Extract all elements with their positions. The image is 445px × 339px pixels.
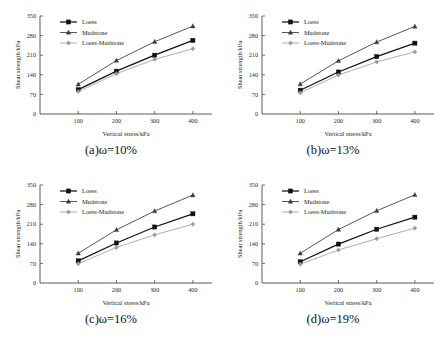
svg-text:Loess-Mudstone: Loess-Mudstone	[82, 208, 124, 215]
svg-text:400: 400	[188, 117, 197, 124]
svg-text:0: 0	[33, 110, 36, 117]
svg-text:100: 100	[74, 117, 83, 124]
svg-text:200: 200	[334, 286, 343, 293]
svg-text:0: 0	[33, 279, 36, 286]
svg-text:Shear strength/kPa: Shear strength/kPa	[236, 210, 243, 258]
svg-text:Loess: Loess	[304, 187, 319, 194]
subplot-a: 070140210280350100200300400Vertical stre…	[0, 0, 222, 169]
svg-text:210: 210	[27, 220, 36, 227]
svg-text:70: 70	[252, 260, 258, 267]
svg-text:100: 100	[296, 117, 305, 124]
subplot-d-plot: 070140210280350100200300400Vertical stre…	[222, 169, 444, 314]
svg-text:140: 140	[27, 71, 36, 78]
svg-text:200: 200	[334, 117, 343, 124]
svg-text:400: 400	[410, 286, 419, 293]
svg-text:200: 200	[112, 117, 121, 124]
svg-text:Mudstone: Mudstone	[82, 198, 107, 205]
subplot-b-caption: (b)ω=13%	[222, 143, 444, 158]
svg-text:210: 210	[27, 51, 36, 58]
svg-text:Vertical stress/kPa: Vertical stress/kPa	[102, 299, 149, 306]
svg-text:Loess-Mudstone: Loess-Mudstone	[304, 208, 346, 215]
svg-text:Loess: Loess	[82, 187, 97, 194]
svg-text:200: 200	[112, 286, 121, 293]
svg-text:Mudstone: Mudstone	[304, 29, 329, 36]
svg-text:140: 140	[249, 240, 258, 247]
svg-text:Shear strength/kPa: Shear strength/kPa	[236, 41, 243, 89]
svg-text:140: 140	[27, 240, 36, 247]
svg-text:300: 300	[372, 286, 381, 293]
figure-container: 070140210280350100200300400Vertical stre…	[0, 0, 445, 339]
svg-text:140: 140	[249, 71, 258, 78]
svg-text:0: 0	[255, 279, 258, 286]
svg-text:300: 300	[150, 117, 159, 124]
svg-text:70: 70	[252, 91, 258, 98]
svg-text:Vertical stress/kPa: Vertical stress/kPa	[324, 130, 371, 137]
svg-text:Vertical stress/kPa: Vertical stress/kPa	[102, 130, 149, 137]
svg-text:280: 280	[27, 201, 36, 208]
subplot-c: 070140210280350100200300400Vertical stre…	[0, 169, 222, 338]
subplot-c-plot: 070140210280350100200300400Vertical stre…	[0, 169, 222, 314]
svg-text:350: 350	[27, 12, 36, 19]
subplot-c-caption: (c)ω=16%	[0, 312, 222, 327]
svg-text:350: 350	[249, 12, 258, 19]
svg-text:Shear strength/kPa: Shear strength/kPa	[14, 210, 21, 258]
svg-text:Shear strength/kPa: Shear strength/kPa	[14, 41, 21, 89]
svg-text:Mudstone: Mudstone	[82, 29, 107, 36]
svg-text:210: 210	[249, 220, 258, 227]
subplot-d: 070140210280350100200300400Vertical stre…	[222, 169, 444, 338]
svg-text:70: 70	[30, 91, 36, 98]
svg-text:0: 0	[255, 110, 258, 117]
svg-text:280: 280	[27, 32, 36, 39]
svg-text:Mudstone: Mudstone	[304, 198, 329, 205]
subplot-b-plot: 070140210280350100200300400Vertical stre…	[222, 0, 444, 145]
svg-text:400: 400	[410, 117, 419, 124]
svg-text:Loess: Loess	[82, 18, 97, 25]
subplot-b: 070140210280350100200300400Vertical stre…	[222, 0, 444, 169]
svg-text:280: 280	[249, 32, 258, 39]
svg-text:100: 100	[296, 286, 305, 293]
svg-text:300: 300	[372, 117, 381, 124]
subplot-d-caption: (d)ω=19%	[222, 312, 444, 327]
svg-text:350: 350	[249, 181, 258, 188]
svg-text:400: 400	[188, 286, 197, 293]
subplot-a-caption: (a)ω=10%	[0, 143, 222, 158]
svg-text:280: 280	[249, 201, 258, 208]
svg-text:300: 300	[150, 286, 159, 293]
svg-text:Loess-Mudstone: Loess-Mudstone	[82, 39, 124, 46]
svg-text:100: 100	[74, 286, 83, 293]
svg-text:Loess: Loess	[304, 18, 319, 25]
svg-text:Vertical stress/kPa: Vertical stress/kPa	[324, 299, 371, 306]
svg-text:Loess-Mudstone: Loess-Mudstone	[304, 39, 346, 46]
subplot-a-plot: 070140210280350100200300400Vertical stre…	[0, 0, 222, 145]
svg-text:210: 210	[249, 51, 258, 58]
svg-text:70: 70	[30, 260, 36, 267]
svg-text:350: 350	[27, 181, 36, 188]
